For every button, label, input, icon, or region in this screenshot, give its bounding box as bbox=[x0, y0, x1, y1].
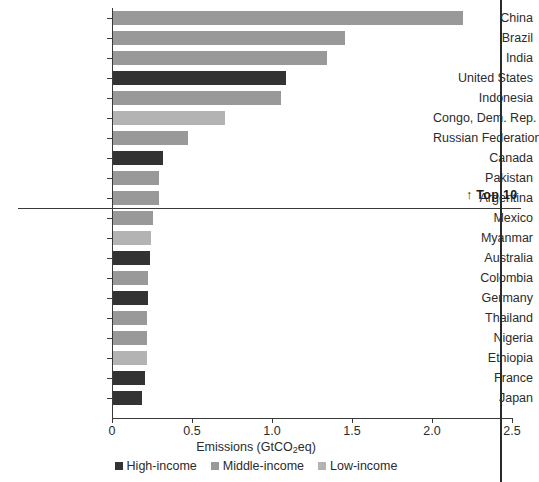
legend-item[interactable]: Middle-income bbox=[211, 459, 304, 473]
bar bbox=[113, 331, 147, 345]
bar-row: China bbox=[0, 8, 539, 28]
bar-row: Canada bbox=[0, 148, 539, 168]
x-axis-tick-label: 1.0 bbox=[263, 424, 280, 438]
bar-row: France bbox=[0, 368, 539, 388]
x-axis-title: Emissions (GtCO2eq) bbox=[0, 440, 512, 454]
x-axis-tick bbox=[272, 418, 273, 423]
y-axis-category-label: Brazil bbox=[433, 28, 539, 48]
bar bbox=[113, 351, 147, 365]
bar bbox=[113, 71, 286, 85]
bar bbox=[113, 91, 281, 105]
y-axis-category-label: Congo, Dem. Rep. bbox=[433, 108, 539, 128]
legend-label: Low-income bbox=[330, 459, 397, 473]
legend-item[interactable]: Low-income bbox=[318, 459, 397, 473]
y-axis-category-label: Indonesia bbox=[433, 88, 539, 108]
x-axis-title-post: eq) bbox=[298, 440, 316, 454]
y-axis-category-label: Thailand bbox=[433, 308, 539, 328]
bar bbox=[113, 11, 463, 25]
bar-row: Ethiopia bbox=[0, 348, 539, 368]
up-arrow-icon: ↑ bbox=[466, 188, 473, 202]
bar bbox=[113, 391, 142, 405]
bar bbox=[113, 251, 150, 265]
emissions-bar-chart: ChinaBrazilIndiaUnited StatesIndonesiaCo… bbox=[0, 0, 539, 482]
x-axis-tick bbox=[432, 418, 433, 423]
y-axis-category-label: Germany bbox=[433, 288, 539, 308]
y-axis-category-label: Pakistan bbox=[433, 168, 539, 188]
bar bbox=[113, 311, 147, 325]
y-axis-category-label: Nigeria bbox=[433, 328, 539, 348]
legend-swatch-icon bbox=[211, 462, 219, 470]
plot-area: ChinaBrazilIndiaUnited StatesIndonesiaCo… bbox=[0, 0, 539, 482]
bar-row: Germany bbox=[0, 288, 539, 308]
bar-row: Congo, Dem. Rep. bbox=[0, 108, 539, 128]
bar bbox=[113, 171, 159, 185]
y-axis-category-label: Japan bbox=[433, 388, 539, 408]
y-axis-category-label: Colombia bbox=[433, 268, 539, 288]
legend-label: Middle-income bbox=[223, 459, 304, 473]
bar bbox=[113, 271, 148, 285]
x-axis-line bbox=[112, 418, 512, 419]
x-axis-tick bbox=[192, 418, 193, 423]
bar-row: Thailand bbox=[0, 308, 539, 328]
y-axis-category-label: Myanmar bbox=[433, 228, 539, 248]
x-axis-tick-label: 1.5 bbox=[343, 424, 360, 438]
y-axis-category-label: France bbox=[433, 368, 539, 388]
top-10-label-text: Top 10 bbox=[476, 188, 517, 202]
bar bbox=[113, 51, 327, 65]
bar bbox=[113, 371, 145, 385]
bar bbox=[113, 291, 148, 305]
bar bbox=[113, 111, 225, 125]
y-axis-category-label: Australia bbox=[433, 248, 539, 268]
bar-row: Colombia bbox=[0, 268, 539, 288]
x-axis-tick-label: 0.5 bbox=[183, 424, 200, 438]
bar-row: Mexico bbox=[0, 208, 539, 228]
x-axis-tick bbox=[112, 418, 113, 423]
x-axis-tick-label: 0 bbox=[109, 424, 116, 438]
bar bbox=[113, 151, 163, 165]
legend-item[interactable]: High-income bbox=[115, 459, 197, 473]
x-axis-title-pre: Emissions (GtCO bbox=[196, 440, 293, 454]
bar bbox=[113, 191, 159, 205]
bar-row: Brazil bbox=[0, 28, 539, 48]
top-10-annotation: ↑ Top 10 bbox=[466, 188, 518, 202]
bar-row: Myanmar bbox=[0, 228, 539, 248]
y-axis-category-label: Canada bbox=[433, 148, 539, 168]
legend-swatch-icon bbox=[115, 462, 123, 470]
x-axis-tick bbox=[352, 418, 353, 423]
legend: High-incomeMiddle-incomeLow-income bbox=[0, 459, 512, 473]
y-axis-category-label: India bbox=[433, 48, 539, 68]
bar bbox=[113, 31, 345, 45]
x-axis-tick-label: 2.5 bbox=[503, 424, 520, 438]
bar-row: Nigeria bbox=[0, 328, 539, 348]
reference-vertical-line bbox=[500, 0, 502, 482]
bar-row: Indonesia bbox=[0, 88, 539, 108]
bar-row: India bbox=[0, 48, 539, 68]
bar-row: Argentina bbox=[0, 188, 539, 208]
y-axis-category-label: United States bbox=[433, 68, 539, 88]
x-axis-tick bbox=[512, 418, 513, 423]
bar-row: Australia bbox=[0, 248, 539, 268]
bar-row: Russian Federation bbox=[0, 128, 539, 148]
bar bbox=[113, 131, 188, 145]
y-axis-category-label: Mexico bbox=[433, 208, 539, 228]
bar bbox=[113, 211, 153, 225]
bar-row: United States bbox=[0, 68, 539, 88]
y-axis-category-label: Ethiopia bbox=[433, 348, 539, 368]
bar bbox=[113, 231, 151, 245]
legend-label: High-income bbox=[127, 459, 197, 473]
x-axis-tick-label: 2.0 bbox=[423, 424, 440, 438]
x-axis-title-subscript: 2 bbox=[293, 445, 298, 455]
legend-swatch-icon bbox=[318, 462, 326, 470]
bar-row: Japan bbox=[0, 388, 539, 408]
y-axis-category-label: Russian Federation bbox=[433, 128, 539, 148]
bar-row: Pakistan bbox=[0, 168, 539, 188]
top-10-divider-line bbox=[18, 208, 521, 209]
